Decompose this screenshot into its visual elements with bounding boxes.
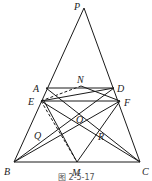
segment-PC bbox=[84, 8, 140, 162]
point-label-E: E bbox=[27, 96, 34, 107]
point-label-N: N bbox=[76, 74, 85, 85]
point-label-D: D bbox=[116, 83, 125, 94]
point-label-B: B bbox=[4, 166, 10, 177]
geometry-diagram: PADNEFOQRBMC 图 2-5-17 bbox=[0, 0, 152, 181]
point-label-P: P bbox=[73, 1, 80, 12]
point-label-Q: Q bbox=[34, 130, 42, 141]
point-label-F: F bbox=[123, 97, 131, 108]
point-label-R: R bbox=[97, 131, 104, 142]
point-label-O: O bbox=[76, 114, 83, 125]
segment-PB bbox=[14, 8, 84, 162]
segment-EM bbox=[44, 101, 77, 162]
point-label-A: A bbox=[32, 83, 40, 94]
figure-caption: 图 2-5-17 bbox=[58, 173, 95, 181]
point-label-C: C bbox=[142, 166, 149, 177]
